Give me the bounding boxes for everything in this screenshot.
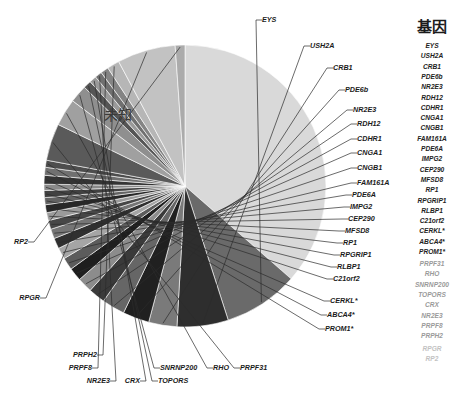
slice-callout-label: CRX [125,376,141,385]
slice-callout-label: RLBP1 [337,262,361,271]
slice-callout-label: RPGR [19,293,41,302]
slice-callout-label: NR2E3 [87,376,110,385]
pie-chart-svg: EYSUSH2ACRB1PDE6bNR2E3RDH12CDHR1CNGA1CNG… [0,0,468,397]
legend-item-rp2[interactable]: RP2 [426,355,439,362]
slice-callout-label: CNGB1 [357,163,382,172]
legend-item-cep290[interactable]: CEP290 [420,166,445,173]
legend-item-abca4[interactable]: ABCA4* [418,238,445,245]
slice-callout-label: PRPH2 [73,350,97,359]
legend-item-prph2[interactable]: PRPH2 [421,332,443,339]
legend-item-cerkl[interactable]: CERKL* [419,227,445,234]
legend-item-rdh12[interactable]: RDH12 [421,94,443,101]
legend-item-prpf31[interactable]: PRPF31 [420,260,445,267]
slice-callout-label: PDE6A [352,190,376,199]
legend-item-cdhr1[interactable]: CDHR1 [421,104,444,111]
slice-callout-label: CRB1 [333,63,353,72]
legend-item-topors[interactable]: TOPORS [418,291,446,298]
slice-callout-label: IMPG2 [350,202,372,211]
slice-callout-label: PRPF8 [69,363,92,372]
legend-item-pde6b[interactable]: PDE6b [421,73,442,80]
slice-callout-label: CEP290 [348,214,375,223]
legend-item-prom1[interactable]: PROM1* [419,248,445,255]
legend-item-snrnp200[interactable]: SNRNP200 [415,281,449,288]
legend-item-rpgrip1[interactable]: RPGRIP1 [418,197,447,204]
legend-item-rlbp1[interactable]: RLBP1 [421,207,443,214]
slice-callout-label: CDHR1 [357,134,382,143]
legend-item-rpgr[interactable]: RPGR [422,345,441,352]
legend-item-ush2a[interactable]: USH2A [421,52,444,59]
slice-callout-label: TOPORS [158,376,188,385]
slice-callout-label: RP2 [14,237,28,246]
slice-callout-label: PRPF31 [240,363,267,372]
legend-item-nr2e3[interactable]: NR2E3 [421,83,443,90]
center-slice-label: 未知 [104,107,132,123]
legend-item-fam161a[interactable]: FAM161A [417,135,447,142]
slice-callout-label: PROM1* [325,324,355,333]
slice-callout-label: SNRNP200 [160,363,197,372]
legend-title: 基因 [416,18,447,36]
slice-callout-label: CERKL* [330,296,359,305]
slice-callout-label: CNGA1 [357,148,382,157]
legend-item-cnga1[interactable]: CNGA1 [420,114,443,121]
legend-item-eys[interactable]: EYS [425,42,439,49]
legend-item-mfsd8[interactable]: MFSD8 [421,176,444,183]
slice-callout-label: USH2A [310,41,334,50]
slice-callout-label: C21orf2 [333,274,360,283]
legend-items-group: EYSUSH2ACRB1PDE6bNR2E3RDH12CDHR1CNGA1CNG… [415,42,449,362]
slice-callout-label: RP1 [343,238,357,247]
legend-item-pde6a[interactable]: PDE6A [421,145,443,152]
slice-callout-label: EYS [262,15,277,24]
legend-item-crb1[interactable]: CRB1 [423,63,441,70]
slice-callout-label: RPGRIP1 [340,250,372,259]
legend-item-c21orf2[interactable]: C21orf2 [420,217,445,224]
slice-callout-label: NR2E3 [353,105,376,114]
slice-callout-label: RHO [213,363,229,372]
slice-callout-label: MFSD8 [345,226,369,235]
legend-item-crx[interactable]: CRX [425,301,440,308]
legend-item-rho[interactable]: RHO [425,270,441,277]
legend-item-nr2e3[interactable]: NR2E3 [421,312,443,319]
pie-slices-group [44,45,326,327]
pie-chart-figure: EYSUSH2ACRB1PDE6bNR2E3RDH12CDHR1CNGA1CNG… [0,0,468,397]
slice-callout-label: FAM161A [357,178,389,187]
legend-item-cngb1[interactable]: CNGB1 [420,124,443,131]
legend-item-rp1[interactable]: RP1 [426,186,439,193]
legend-item-impg2[interactable]: IMPG2 [422,155,443,162]
slice-callout-label: RDH12 [357,119,381,128]
slice-callout-label: PDE6b [345,85,369,94]
slice-callout-label: ABCA4* [326,310,356,319]
legend-item-prpf8[interactable]: PRPF8 [421,322,443,329]
